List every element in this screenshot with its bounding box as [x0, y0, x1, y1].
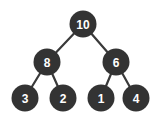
node-label: 3	[22, 92, 29, 106]
node-label: 4	[133, 92, 140, 106]
tree-node-left: 8	[34, 49, 61, 76]
node-label: 8	[44, 56, 51, 70]
tree-nodes: 10 8 6 3 2 1 4	[12, 11, 150, 112]
node-label: 1	[98, 92, 105, 106]
tree-node-right-right: 4	[123, 85, 150, 112]
node-label: 10	[76, 18, 90, 32]
tree-node-left-left: 3	[12, 85, 39, 112]
tree-node-left-right: 2	[50, 85, 77, 112]
node-label: 6	[113, 56, 120, 70]
tree-node-right: 6	[103, 49, 130, 76]
tree-node-root: 10	[70, 11, 97, 38]
tree-node-right-left: 1	[88, 85, 115, 112]
binary-tree-diagram: 10 8 6 3 2 1 4	[0, 0, 160, 119]
node-label: 2	[60, 92, 67, 106]
